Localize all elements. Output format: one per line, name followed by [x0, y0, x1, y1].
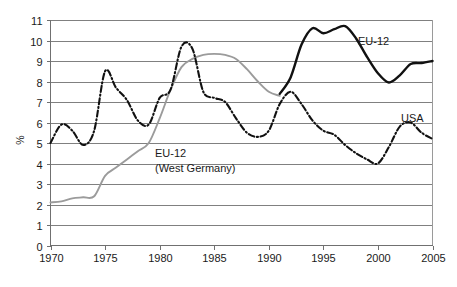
y-tick-label-5: 5: [36, 138, 42, 150]
x-tick-label-1975: 1975: [93, 252, 117, 264]
y-tick-label-8: 8: [36, 77, 42, 89]
x-tick-label-2000: 2000: [366, 252, 390, 264]
y-tick-label-11: 11: [31, 15, 42, 27]
y-tick-label-9: 9: [36, 56, 42, 68]
series-annotation-eu-12: EU-12: [358, 35, 389, 47]
x-tick-label-1995: 1995: [311, 252, 335, 264]
x-tick-label-1970: 1970: [39, 252, 63, 264]
y-tick-label-1: 1: [36, 220, 42, 232]
x-tick-label-1980: 1980: [148, 252, 172, 264]
unemployment-rate-line-chart: 01234567891011 1970197519801985199019952…: [0, 0, 457, 287]
y-tick-label-7: 7: [36, 97, 42, 109]
y-tick-label-4: 4: [36, 159, 42, 171]
y-tick-label-6: 6: [36, 118, 42, 130]
chart-canvas: 01234567891011 1970197519801985199019952…: [0, 0, 457, 287]
series-annotation-usa: USA: [401, 112, 424, 124]
x-tick-label-2005: 2005: [421, 252, 445, 264]
y-tick-label-3: 3: [36, 179, 42, 191]
y-tick-label-2: 2: [36, 200, 42, 212]
series-annotation-eu-12: EU-12: [155, 147, 186, 159]
series-annotation-west-germany: (West Germany): [155, 162, 235, 174]
x-tick-label-1990: 1990: [257, 252, 281, 264]
y-tick-label-10: 10: [30, 36, 42, 48]
x-tick-label-1985: 1985: [202, 252, 226, 264]
y-axis-title: %: [14, 135, 26, 144]
